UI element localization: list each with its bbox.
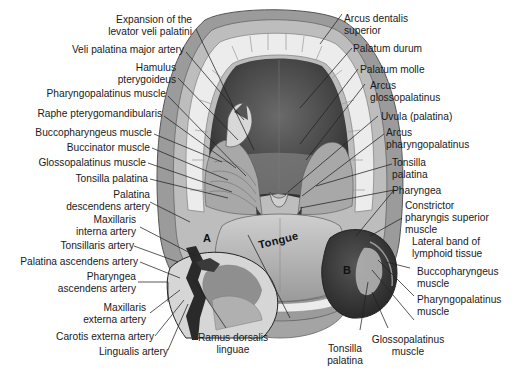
- label-carotis-externa-artery: Carotis externa artery: [56, 331, 154, 343]
- label-tonsillaris-artery: Tonsillaris artery: [60, 240, 134, 252]
- label-veli-palatina-major-artery: Veli palatina major artery: [72, 44, 184, 56]
- inset-b-letter: B: [343, 264, 351, 276]
- label-raphe: Raphe pterygomandibularis: [37, 108, 162, 120]
- label-ramus-dorsalis-linguae: Ramus dorsalislinguae: [193, 332, 273, 356]
- label-glossopalatinus-muscle-b: Glossopalatinusmuscle: [368, 334, 448, 358]
- label-constrictor: Constrictorpharyngis superiormuscle: [405, 200, 489, 236]
- label-tonsilla-palatina: Tonsilla palatina: [76, 173, 149, 185]
- label-pharyngea: Pharyngea: [392, 185, 441, 197]
- label-arcus-dentalis-superior: Arcus dentalissuperior: [344, 13, 408, 37]
- label-maxillaris-externa-artery: Maxillarisexterna artery: [83, 302, 146, 326]
- label-palatum-durum: Palatum durum: [353, 43, 422, 55]
- label-palatina-ascendens-artery: Palatina ascendens artery: [20, 256, 138, 268]
- anatomy-figure: A B Tongue Expansion of thelevator veli …: [0, 0, 518, 372]
- label-palatina-descendens-artery: Palatinadescendens artery: [66, 189, 150, 213]
- label-buccopharyngeus-muscle-b: Buccopharyngeusmuscle: [417, 266, 499, 290]
- label-arcus-pharyngopalatinus: Arcuspharyngopalatinus: [386, 127, 469, 151]
- label-hamulus: Hamuluspterygoideus: [118, 62, 176, 86]
- label-expansion: Expansion of thelevator veli palatini: [108, 14, 192, 38]
- label-pharyngopalatinus-muscle: Pharyngopalatinus muscle: [47, 88, 167, 100]
- label-pharyngea-ascendens-artery: Pharyngeaascendens artery: [58, 271, 136, 295]
- label-arcus-glossopalatinus: Arcusglossopalatinus: [370, 80, 440, 104]
- label-palatum-molle: Palatum molle: [360, 64, 425, 76]
- label-maxillaris-interna-artery: Maxillarisinterna artery: [76, 214, 136, 238]
- label-pharyngopalatinus-muscle-b: Pharyngopalatinusmuscle: [417, 294, 501, 318]
- label-lateral-band: Lateral band oflymphoid tissue: [412, 236, 482, 260]
- label-uvula: Uvula (palatina): [381, 111, 452, 123]
- label-tonsilla-palatina-right: Tonsillapalatina: [392, 157, 428, 181]
- label-glossopalatinus-muscle: Glossopalatinus muscle: [38, 157, 146, 169]
- label-tonsilla-palatina-b: Tonsillapalatina: [320, 343, 370, 367]
- inset-a-letter: A: [203, 232, 211, 244]
- label-buccinator-muscle: Buccinator muscle: [67, 142, 150, 154]
- label-lingualis-artery: Lingualis artery: [99, 346, 168, 358]
- label-buccopharyngeus-muscle: Buccopharyngeus muscle: [35, 127, 152, 139]
